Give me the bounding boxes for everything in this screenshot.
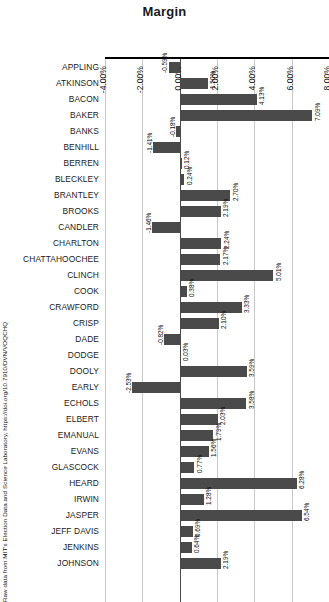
- bar-value-label: 5.01%: [275, 263, 283, 281]
- bar-value-label: 0.64%: [193, 535, 201, 553]
- source-caption: Raw data from MIT's Election Data and Sc…: [0, 0, 13, 602]
- bar-row: CLINCH5.01%: [105, 267, 329, 283]
- bar-row: BRANTLEY2.70%: [105, 187, 329, 203]
- bar-value-label: 2.19%: [222, 551, 230, 569]
- bar-row: BROOKS2.19%: [105, 203, 329, 219]
- bar-value-label: 6.54%: [303, 503, 311, 521]
- bar-container: 3.33%: [105, 299, 329, 315]
- bar-value-label: -0.18%: [169, 117, 177, 137]
- category-label: JASPER: [66, 507, 99, 523]
- bar-value-label: 3.59%: [248, 359, 256, 377]
- category-label: CANDLER: [58, 219, 99, 235]
- bar: [152, 222, 179, 233]
- bar-row: BAKER7.09%: [105, 107, 329, 123]
- bar-row: BACON4.13%: [105, 91, 329, 107]
- category-label: APPLING: [62, 59, 99, 75]
- bar-container: 2.19%: [105, 555, 329, 571]
- bar: [132, 382, 179, 393]
- bar-value-label: 0.38%: [188, 279, 196, 297]
- bar-container: 7.09%: [105, 107, 329, 123]
- category-label: CHARLTON: [53, 235, 99, 251]
- category-label: ATKINSON: [56, 75, 99, 91]
- bar-value-label: 2.70%: [232, 183, 240, 201]
- bar-value-label: -1.41%: [146, 133, 154, 153]
- bar-row: EARLY-2.53%: [105, 379, 329, 395]
- bar: [153, 142, 179, 153]
- bar-row: DADE-0.82%: [105, 331, 329, 347]
- bar-container: -0.59%: [105, 59, 329, 75]
- category-label: BENHILL: [63, 139, 99, 155]
- category-label: ECHOLS: [64, 395, 99, 411]
- category-label: IRWIN: [74, 491, 99, 507]
- bar-row: GLASCOCK0.77%: [105, 459, 329, 475]
- bar-value-label: 0.77%: [196, 455, 204, 473]
- bar-row: EVANS1.56%: [105, 443, 329, 459]
- bar-container: -2.53%: [105, 379, 329, 395]
- bar-container: 0.38%: [105, 283, 329, 299]
- bar: [180, 446, 209, 457]
- bar-value-label: 4.13%: [258, 87, 266, 105]
- bar-row: JOHNSON2.19%: [105, 555, 329, 571]
- bar: [180, 558, 221, 569]
- category-label: BRANTLEY: [54, 187, 99, 203]
- bar-value-label: -0.82%: [157, 325, 165, 345]
- bar-row: DOOLY3.59%: [105, 363, 329, 379]
- bar: [180, 302, 242, 313]
- category-label: CLINCH: [67, 267, 99, 283]
- bar: [180, 350, 181, 361]
- bar: [180, 414, 218, 425]
- category-label: EMANUAL: [58, 427, 99, 443]
- bar: [180, 206, 221, 217]
- bar-container: 0.03%: [105, 347, 329, 363]
- category-label: BROOKS: [63, 203, 99, 219]
- bar-value-label: -2.53%: [125, 373, 133, 393]
- bar-value-label: 1.28%: [205, 487, 213, 505]
- bar-row: CHARLTON2.24%: [105, 235, 329, 251]
- category-label: BERREN: [63, 155, 99, 171]
- category-label: BANKS: [70, 123, 99, 139]
- bar-row: JENKINS0.64%: [105, 539, 329, 555]
- bar-row: HEARD6.28%: [105, 475, 329, 491]
- bar-row: BANKS-0.18%: [105, 123, 329, 139]
- bar-row: CHATTAHOOCHEE2.17%: [105, 251, 329, 267]
- bar-container: 0.24%: [105, 171, 329, 187]
- bar-row: IRWIN1.28%: [105, 491, 329, 507]
- bar-value-label: 0.03%: [182, 343, 190, 361]
- bar-container: 0.64%: [105, 539, 329, 555]
- bar-container: 4.13%: [105, 91, 329, 107]
- bar: [180, 478, 297, 489]
- bar-value-label: 0.24%: [186, 167, 194, 185]
- bar-container: 5.01%: [105, 267, 329, 283]
- bar: [180, 462, 194, 473]
- bar-value-label: -1.46%: [145, 213, 153, 233]
- category-label: BAKER: [70, 107, 99, 123]
- bar: [180, 398, 247, 409]
- category-label: CRAWFORD: [49, 299, 99, 315]
- bar: [180, 286, 187, 297]
- bar: [180, 158, 182, 169]
- category-label: JOHNSON: [57, 555, 99, 571]
- bar-value-label: 1.50%: [209, 71, 217, 89]
- bar-row: DODGE0.03%: [105, 347, 329, 363]
- plot-area: -4.00%-2.00%0.00%2.00%4.00%6.00%8.00% AP…: [105, 57, 329, 602]
- bar-container: 2.24%: [105, 235, 329, 251]
- bar: [180, 430, 213, 441]
- bar-row: JASPER6.54%: [105, 507, 329, 523]
- bar: [180, 366, 247, 377]
- category-label: DOOLY: [70, 363, 99, 379]
- bar: [180, 318, 219, 329]
- bar: [180, 254, 221, 265]
- category-label: BACON: [69, 91, 99, 107]
- category-label: ELBERT: [66, 411, 99, 427]
- category-label: GLASCOCK: [52, 459, 99, 475]
- category-label: JENKINS: [63, 539, 99, 555]
- category-label: EARLY: [72, 379, 99, 395]
- bar-container: -1.41%: [105, 139, 329, 155]
- category-label: DADE: [75, 331, 99, 347]
- bar-value-label: 6.28%: [298, 471, 306, 489]
- bar-value-label: 2.10%: [220, 311, 228, 329]
- bar-container: 1.50%: [105, 75, 329, 91]
- category-label: EVANS: [71, 443, 99, 459]
- bar: [180, 238, 222, 249]
- bar-container: 0.12%: [105, 155, 329, 171]
